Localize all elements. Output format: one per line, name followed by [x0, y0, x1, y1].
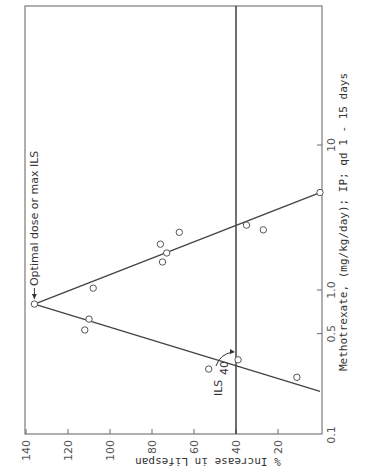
fit-line-descending [34, 193, 320, 305]
data-point [164, 250, 170, 256]
x-tick-label: 0.1 [325, 426, 338, 444]
data-point [86, 316, 92, 322]
fit-lines-group [34, 193, 320, 392]
plot-frame [25, 6, 322, 434]
ils40-arrowhead [230, 349, 235, 354]
data-point [31, 301, 37, 307]
data-point [243, 222, 249, 228]
data-point [294, 374, 300, 380]
x-axis-label: Methotrexate, (mg/kg/day); IP; qd 1 - 15… [337, 73, 350, 371]
y-tick-label: 80 [146, 440, 159, 454]
data-point [260, 227, 266, 233]
fit-line-ascending [34, 304, 320, 391]
tick-group: 204060801001201400.10.51.010 [20, 138, 338, 461]
y-tick-label: 60 [188, 440, 201, 454]
ils40-label: ILS [212, 380, 225, 396]
reference-line-group: ILS40 [212, 6, 236, 434]
data-point [235, 357, 241, 363]
data-points-group [31, 189, 323, 380]
data-point [159, 259, 165, 265]
y-tick-label: 40 [230, 440, 243, 454]
data-point [206, 366, 212, 372]
y-tick-label: 100 [104, 440, 117, 461]
chart: 204060801001201400.10.51.010 ILS40 Optim… [0, 0, 365, 476]
optimal-arrowhead [32, 294, 37, 299]
data-point [90, 285, 96, 291]
data-point [317, 189, 323, 195]
data-point [176, 229, 182, 235]
annotation-group: Optimal dose or max ILS [28, 151, 41, 299]
optimal-dose-label: Optimal dose or max ILS [28, 151, 41, 286]
data-point [157, 241, 163, 247]
y-tick-label: 120 [62, 440, 75, 461]
y-axis-label: % Increase in Lifespan [135, 455, 281, 468]
y-tick-label: 140 [20, 440, 33, 461]
y-tick-label: 20 [272, 440, 285, 454]
data-point [82, 327, 88, 333]
